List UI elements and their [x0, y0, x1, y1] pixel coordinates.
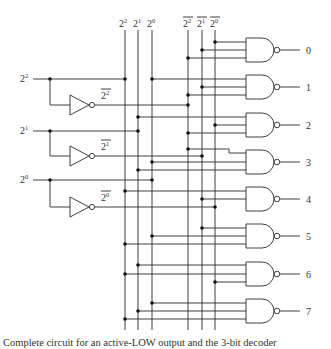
svg-text:1: 1	[306, 82, 311, 93]
nand-gate-6: 6	[246, 262, 311, 286]
svg-text:7: 7	[306, 306, 311, 317]
bus-label-not-2-0: 20	[210, 17, 218, 29]
inverted-label-2-1: 21	[101, 140, 109, 152]
inverter-2-0	[70, 197, 89, 217]
nand-gates: 0 1 2 3 4 5 6 7	[246, 38, 311, 323]
bus-label-2-0: 20	[147, 17, 155, 29]
bus-label-not-2-2: 22	[183, 17, 191, 29]
svg-text:4: 4	[306, 194, 311, 205]
bus-label-2-2: 22	[119, 17, 127, 29]
nand-gate-3: 3	[246, 150, 311, 174]
nand-gate-0: 0	[246, 38, 311, 62]
inverted-label-2-2: 22	[101, 89, 109, 101]
input-label-2-0: 20	[20, 173, 28, 185]
svg-text:2: 2	[306, 120, 311, 131]
svg-text:5: 5	[306, 231, 311, 242]
gate-input-wires	[123, 40, 246, 321]
bus-labels: 22 21 20 22 21 20	[119, 17, 220, 29]
input-label-2-1: 21	[20, 124, 28, 136]
nand-gate-7: 7	[246, 299, 311, 323]
decoder-circuit: 22 21 20 22 21 20 22 22 21 21	[0, 0, 331, 349]
nand-gate-1: 1	[246, 75, 311, 99]
bus-label-2-1: 21	[133, 17, 141, 29]
figure-caption: Complete circuit for an active-LOW outpu…	[3, 337, 277, 348]
nand-gate-5: 5	[246, 224, 311, 248]
input-label-2-2: 22	[20, 72, 28, 84]
inverter-2-1	[70, 146, 89, 166]
svg-text:3: 3	[306, 157, 311, 168]
nand-gate-4: 4	[246, 187, 311, 211]
inverter-2-2	[70, 95, 89, 115]
nand-gate-2: 2	[246, 113, 311, 137]
bus-label-not-2-1: 21	[197, 17, 205, 29]
inverted-label-2-0: 20	[101, 191, 109, 203]
svg-text:6: 6	[306, 269, 311, 280]
svg-text:0: 0	[306, 45, 311, 56]
